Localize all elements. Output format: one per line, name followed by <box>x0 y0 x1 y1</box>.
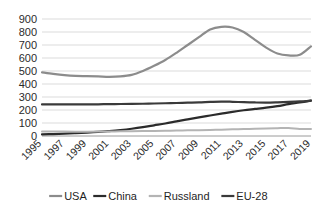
y-tick-label: 100 <box>19 117 37 129</box>
x-tick-label: 2015 <box>243 137 268 162</box>
y-tick-label: 200 <box>19 104 37 116</box>
x-tick-label: 2001 <box>86 137 111 162</box>
x-tick-label: 2003 <box>108 137 133 162</box>
x-tick-label: 2013 <box>220 137 245 162</box>
chart-canvas: 0100200300400500600700800900 19951997199… <box>0 0 314 209</box>
y-axis-labels: 0100200300400500600700800900 <box>19 13 37 142</box>
y-tick-label: 300 <box>19 91 37 103</box>
x-axis-labels: 1995199719992001200320052007200920112013… <box>18 137 312 162</box>
y-tick-label: 400 <box>19 78 37 90</box>
x-tick-label: 2011 <box>198 137 223 162</box>
gridlines <box>42 19 311 136</box>
series-line-eu-28 <box>42 101 311 105</box>
y-tick-label: 700 <box>19 39 37 51</box>
x-tick-label: 2007 <box>153 137 178 162</box>
legend-label-usa: USA <box>64 190 87 202</box>
chart-legend: USAChinaRusslandEU-28 <box>49 190 267 202</box>
data-series <box>42 27 311 135</box>
y-tick-label: 600 <box>19 52 37 64</box>
legend-label-russland: Russland <box>164 190 210 202</box>
x-tick-label: 2019 <box>287 137 312 162</box>
x-tick-label: 1997 <box>41 137 66 162</box>
legend-label-eu-28: EU-28 <box>236 190 267 202</box>
y-tick-label: 800 <box>19 26 37 38</box>
series-line-russland <box>42 128 311 132</box>
y-tick-label: 500 <box>19 65 37 77</box>
x-tick-label: 1995 <box>18 137 43 162</box>
x-tick-label: 1999 <box>63 137 88 162</box>
x-tick-label: 2009 <box>175 137 200 162</box>
series-line-usa <box>42 27 311 77</box>
line-chart: 0100200300400500600700800900 19951997199… <box>0 0 314 209</box>
legend-label-china: China <box>108 190 138 202</box>
x-tick-label: 2005 <box>130 137 155 162</box>
x-tick-label: 2017 <box>265 137 290 162</box>
y-tick-label: 900 <box>19 13 37 25</box>
